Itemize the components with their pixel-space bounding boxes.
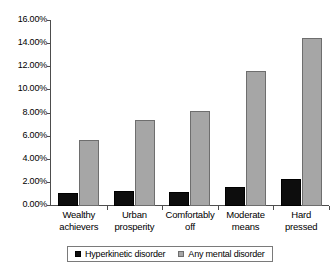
bar-group [218, 20, 274, 206]
y-axis-tick [47, 159, 50, 160]
y-axis-tick-label: 16.00% [0, 15, 47, 24]
bar-1 [79, 140, 99, 206]
x-axis-tick [162, 206, 163, 210]
y-axis-tick-label: 2.00% [0, 177, 47, 186]
bar-0 [281, 179, 301, 206]
y-axis-tick-label: 6.00% [0, 131, 47, 140]
y-axis-tick-label: 12.00% [0, 61, 47, 70]
bar-chart: 0.00%2.00%4.00%6.00%8.00%10.00%12.00%14.… [0, 0, 333, 269]
bar-0 [225, 187, 245, 206]
y-axis-tick [47, 182, 50, 183]
bar-1 [190, 111, 210, 206]
x-axis-category-label: Moderatemeans [218, 209, 274, 232]
y-axis-tick-label: 0.00% [0, 200, 47, 209]
plot-area [51, 20, 329, 206]
y-axis-tick-label: 4.00% [0, 154, 47, 163]
y-axis-labels: 0.00%2.00%4.00%6.00%8.00%10.00%12.00%14.… [0, 0, 47, 269]
x-axis-category-label: Urbanprosperity [107, 209, 163, 232]
bar-group [51, 20, 107, 206]
y-axis-tick-label: 14.00% [0, 38, 47, 47]
x-axis-category-label: Comfortablyoff [162, 209, 218, 232]
x-axis-tick [218, 206, 219, 210]
x-axis-tick [329, 206, 330, 210]
grey-square-swatch-icon [178, 251, 184, 257]
y-axis-tick [47, 20, 50, 21]
y-axis-tick-label: 10.00% [0, 84, 47, 93]
bar-0 [169, 192, 189, 206]
legend-item-0: Hyperkinetic disorder [75, 250, 165, 259]
x-axis-tick [107, 206, 108, 210]
bar-0 [114, 191, 134, 206]
bar-group [273, 20, 329, 206]
legend-label-0: Hyperkinetic disorder [85, 250, 165, 259]
x-axis-category-label: Wealthyachievers [51, 209, 107, 232]
black-square-swatch-icon [75, 251, 81, 257]
chart-legend: Hyperkinetic disorder Any mental disorde… [67, 246, 273, 262]
x-axis-tick [273, 206, 274, 210]
y-axis-tick-label: 8.00% [0, 108, 47, 117]
bar-1 [246, 71, 266, 206]
legend-item-1: Any mental disorder [178, 250, 264, 259]
y-axis-tick [47, 113, 50, 114]
bar-1 [302, 38, 322, 206]
y-axis-tick [47, 66, 50, 67]
x-axis-labels: WealthyachieversUrbanprosperityComfortab… [51, 209, 329, 241]
bar-group [162, 20, 218, 206]
y-axis-tick [47, 205, 50, 206]
y-axis-tick [47, 89, 50, 90]
y-axis-tick [47, 43, 50, 44]
bar-group [107, 20, 163, 206]
legend-label-1: Any mental disorder [188, 250, 264, 259]
bar-0 [58, 193, 78, 206]
bar-1 [135, 120, 155, 206]
y-axis-tick [47, 136, 50, 137]
x-axis-category-label: Hardpressed [273, 209, 329, 232]
